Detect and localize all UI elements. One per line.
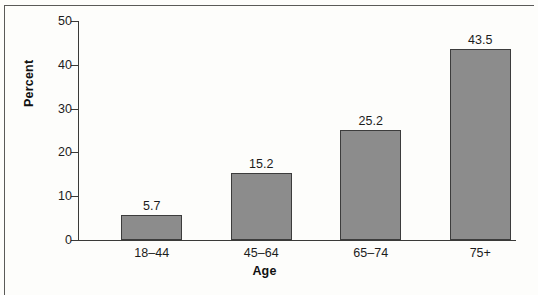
bar-value-label: 25.2 [359, 114, 383, 128]
y-axis-tick-mark [71, 152, 78, 153]
y-axis-tick-mark [71, 65, 78, 66]
bar: 25.2 [340, 130, 401, 240]
x-axis-line [78, 240, 516, 241]
y-axis-tick-label: 20 [58, 145, 72, 159]
y-axis-tick-mark [71, 109, 78, 110]
y-axis-tick-mark [71, 21, 78, 22]
bar: 5.7 [121, 215, 182, 240]
y-axis-tick-label: 40 [58, 58, 72, 72]
x-axis-category-label: 65–74 [311, 246, 431, 260]
bar: 15.2 [231, 173, 292, 240]
y-axis-tick-label: 0 [65, 233, 72, 247]
bar-value-label: 5.7 [143, 199, 160, 213]
y-axis-title: Percent [22, 60, 36, 107]
plot-area: 5.715.225.243.5 [78, 21, 516, 240]
y-axis-tick-label: 30 [58, 102, 72, 116]
x-axis-title: Age [0, 264, 529, 278]
bar-value-label: 43.5 [468, 33, 492, 47]
y-axis-tick-label: 50 [58, 14, 72, 28]
y-axis-tick-mark [71, 240, 78, 241]
x-axis-category-label: 18–44 [92, 246, 212, 260]
x-axis-category-label: 45–64 [201, 246, 321, 260]
y-axis-tick-mark [71, 196, 78, 197]
bar-value-label: 15.2 [249, 157, 273, 171]
x-axis-category-label: 75+ [420, 246, 538, 260]
y-axis-tick-label: 10 [58, 189, 72, 203]
bar: 43.5 [450, 49, 511, 240]
